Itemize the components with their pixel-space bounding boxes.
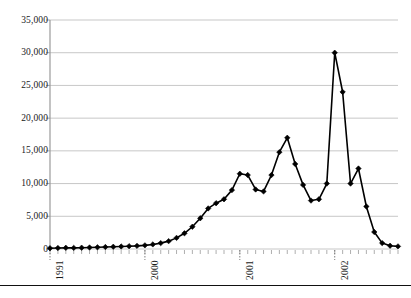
x-axis-tick-label: 2002 [340,260,350,280]
x-axis-tick-label: 1991 [55,260,65,280]
chart-figure: 05,00010,00015,00020,00025,00030,00035,0… [0,0,411,298]
page-separator-rule [0,285,411,286]
x-axis-labels: 1991200020012002 [0,0,411,298]
x-axis-tick-label: 2001 [245,260,255,280]
x-axis-tick-label: 2000 [150,260,160,280]
